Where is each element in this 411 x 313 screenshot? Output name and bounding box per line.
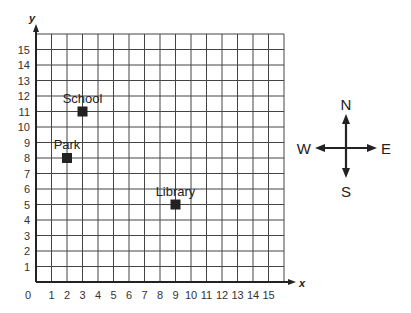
x-tick-label: 5 [110,289,116,301]
x-tick-label: 13 [231,289,243,301]
data-points: SchoolParkLibrary [54,91,196,210]
x-tick-label: 3 [79,289,85,301]
x-tick-label: 11 [201,289,212,301]
x-tick-label: 10 [185,289,197,301]
y-tick-label: 10 [18,121,30,133]
compass-west-label: W [297,140,312,157]
x-tick-label: 7 [141,289,147,301]
y-tick-label: 8 [24,152,30,164]
y-tick-label: 1 [24,261,30,273]
x-tick-label: 1 [48,289,54,301]
y-tick-label: 6 [24,183,30,195]
point-marker-park [62,153,72,163]
y-tick-label: 2 [24,245,30,257]
y-tick-label: 3 [24,230,30,242]
x-tick-label: 4 [95,289,101,301]
south-arrow-icon [342,168,350,178]
y-tick-label: 13 [18,75,30,87]
point-marker-library [171,200,181,210]
origin-label: 0 [25,289,31,301]
y-tick-label: 11 [19,106,30,118]
x-tick-label: 8 [157,289,163,301]
north-arrow-icon [342,114,350,124]
x-tick-label: 15 [262,289,274,301]
east-arrow-icon [367,144,377,152]
coordinate-grid-chart: xy 0123456789101112131415123456789101112… [0,0,411,313]
x-tick-label: 12 [216,289,228,301]
x-tick-label: 6 [126,289,132,301]
y-axis-label: y [28,12,36,24]
point-label-school: School [63,91,103,106]
y-tick-label: 14 [18,59,30,71]
x-tick-label: 2 [64,289,70,301]
grid-lines [36,34,284,282]
y-tick-label: 7 [24,168,30,180]
point-label-library: Library [156,184,196,199]
compass-east-label: E [381,140,391,157]
x-tick-label: 14 [247,289,259,301]
y-tick-label: 12 [18,90,30,102]
y-tick-label: 9 [24,137,30,149]
compass-rose: N S E W [297,96,391,200]
point-label-park: Park [54,137,81,152]
x-axis-arrow-icon [288,279,296,285]
y-axis-arrow-icon [33,24,39,32]
x-axis-label: x [298,277,306,289]
compass-north-label: N [341,96,352,113]
tick-labels: 0123456789101112131415123456789101112131… [18,44,275,302]
y-tick-label: 15 [18,44,30,56]
y-tick-label: 5 [24,199,30,211]
x-tick-label: 9 [172,289,178,301]
point-marker-school [78,107,88,117]
compass-south-label: S [341,183,351,200]
west-arrow-icon [315,144,325,152]
y-tick-label: 4 [24,214,30,226]
